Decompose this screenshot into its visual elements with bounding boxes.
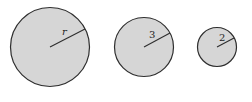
- circle-3: 3: [115, 18, 174, 77]
- circle-2: 2: [198, 28, 237, 67]
- circle-r: r: [11, 8, 90, 87]
- radius-3-label: 3: [149, 29, 155, 40]
- radius-2-label: 2: [219, 32, 225, 43]
- circles-diagram: r 3 2: [0, 0, 252, 102]
